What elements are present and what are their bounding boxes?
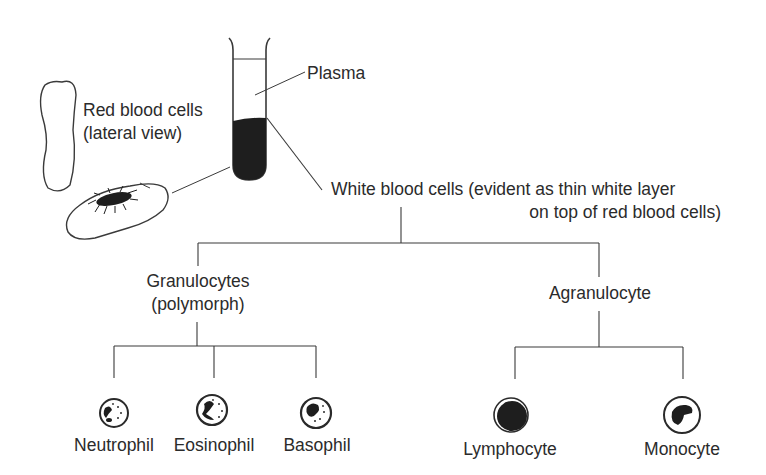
rbc-top-view-icon [67,183,169,239]
wbc-label-line1: White blood cells (evident as thin white… [331,178,675,200]
basophil-cell-icon [301,398,331,428]
monocyte-label: Monocyte [622,438,742,460]
diagram-canvas [0,0,766,475]
basophil-label: Basophil [257,434,377,456]
eosinophil-cell-icon [197,395,227,425]
granulocytes-label-line1: Granulocytes [118,270,278,292]
monocyte-cell-icon [664,397,700,433]
lymphocyte-cell-icon [494,398,528,432]
plasma-label: Plasma [307,62,365,84]
agranulocyte-label: Agranulocyte [520,282,680,304]
neutrophil-cell-icon [100,399,128,427]
red-cell-layer [233,118,266,180]
rbc-lateral-view-icon [41,81,76,191]
lymphocyte-label: Lymphocyte [450,438,570,460]
rbc-label-line1: Red blood cells [83,99,203,121]
wbc-label-line2: on top of red blood cells) [529,201,721,223]
eosinophil-label: Eosinophil [154,434,274,456]
rbc-label-line2: (lateral view) [83,122,182,144]
granulocytes-label-line2: (polymorph) [118,293,278,315]
